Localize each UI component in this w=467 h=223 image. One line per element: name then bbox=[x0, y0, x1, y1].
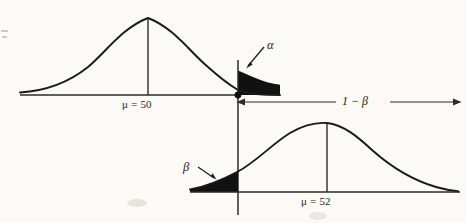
error-probability-figure: μ = 50 μ = 52 α β 1 − β bbox=[0, 0, 467, 223]
alternative-mean-label: μ = 52 bbox=[301, 196, 331, 207]
beta-pointer-arrow bbox=[198, 167, 217, 180]
alpha-pointer-arrow bbox=[246, 47, 264, 68]
scan-speck bbox=[1, 30, 8, 32]
null-distribution-group bbox=[20, 18, 280, 95]
power-label: 1 − β bbox=[338, 95, 372, 107]
null-mean-label: μ = 50 bbox=[122, 99, 152, 110]
figure-canvas bbox=[0, 0, 467, 223]
beta-label: β bbox=[183, 161, 189, 174]
alternative-distribution-group bbox=[190, 123, 460, 192]
scan-speck bbox=[309, 212, 327, 220]
scan-speck bbox=[2, 36, 7, 38]
scan-speck bbox=[127, 199, 147, 207]
alpha-label: α bbox=[267, 39, 274, 52]
critical-value-marker bbox=[235, 92, 242, 99]
power-arrowhead-right bbox=[453, 98, 462, 105]
